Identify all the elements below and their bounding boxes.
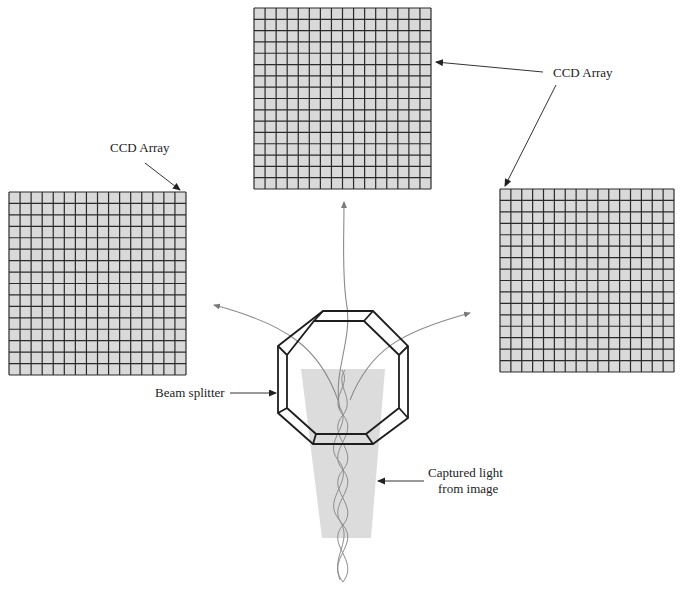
label-ccd-array-left: CCD Array bbox=[110, 140, 170, 155]
captured-light-cone bbox=[301, 369, 385, 538]
ccd-array-left bbox=[9, 192, 186, 375]
diagram-canvas: CCD Array CCD Array Beam splitter Captur… bbox=[0, 0, 680, 589]
label-beam-splitter: Beam splitter bbox=[155, 385, 225, 400]
callout-top-ccd bbox=[436, 62, 543, 72]
label-captured-light-line1: Captured light bbox=[428, 465, 503, 480]
ccd-array-top bbox=[254, 8, 431, 189]
label-ccd-array-top: CCD Array bbox=[553, 65, 613, 80]
callout-right-ccd bbox=[505, 85, 556, 186]
ccd-array-right bbox=[500, 189, 674, 372]
label-captured-light-line2: from image bbox=[438, 481, 499, 496]
callout-left-ccd bbox=[145, 163, 180, 190]
